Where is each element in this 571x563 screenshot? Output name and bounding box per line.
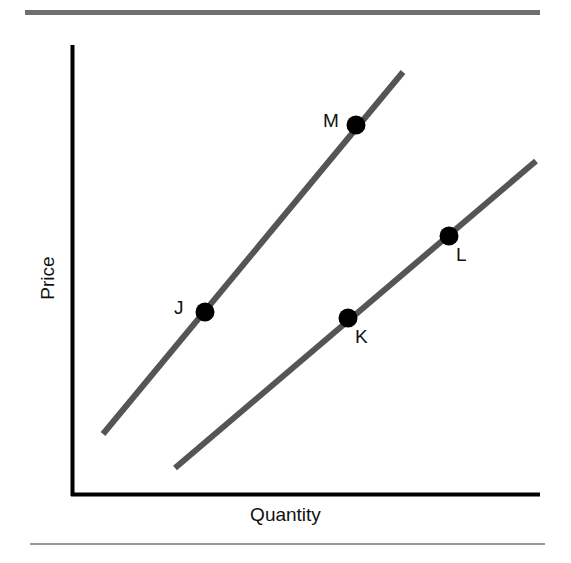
data-point-l — [440, 227, 459, 246]
bottom-divider-rule — [30, 543, 545, 545]
x-axis-label: Quantity — [0, 505, 571, 524]
data-point-k — [339, 309, 358, 328]
y-axis-label: Price — [38, 228, 57, 328]
point-label-l: L — [456, 245, 467, 264]
price-quantity-plot — [0, 0, 571, 563]
point-label-m: M — [323, 111, 339, 130]
supply-shift-figure: Price Quantity M J K L — [0, 0, 571, 563]
data-point-j — [196, 303, 215, 322]
data-point-m — [347, 116, 366, 135]
point-label-j: J — [174, 298, 184, 317]
point-label-k: K — [355, 327, 368, 346]
